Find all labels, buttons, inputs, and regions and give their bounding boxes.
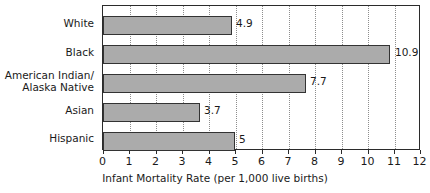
tick-mark-8 xyxy=(315,150,316,154)
bar-white xyxy=(103,16,232,35)
tick-label-5: 5 xyxy=(220,155,250,168)
tick-mark-9 xyxy=(341,150,342,154)
tick-label-3: 3 xyxy=(167,155,197,168)
tick-label-6: 6 xyxy=(247,155,277,168)
tick-mark-1 xyxy=(129,150,130,154)
category-label-american-indian-alaska-native: American Indian/ Alaska Native xyxy=(5,70,94,93)
tick-mark-7 xyxy=(288,150,289,154)
tick-label-8: 8 xyxy=(300,155,330,168)
tick-mark-10 xyxy=(368,150,369,154)
tick-label-0: 0 xyxy=(88,155,118,168)
tick-mark-12 xyxy=(420,150,421,154)
bar-black xyxy=(103,45,390,64)
tick-mark-4 xyxy=(209,150,210,154)
value-label-hispanic: 5 xyxy=(239,134,246,145)
category-label-white: White xyxy=(63,18,94,30)
tick-mark-11 xyxy=(394,150,395,154)
value-label-black: 10.9 xyxy=(395,47,418,58)
gridline-11 xyxy=(395,6,396,149)
tick-mark-6 xyxy=(262,150,263,154)
gridline-10 xyxy=(368,6,369,149)
category-label-asian: Asian xyxy=(65,105,94,117)
bar-hispanic xyxy=(103,132,235,151)
tick-mark-5 xyxy=(235,150,236,154)
tick-label-10: 10 xyxy=(353,155,383,168)
tick-label-4: 4 xyxy=(194,155,224,168)
tick-label-7: 7 xyxy=(273,155,303,168)
tick-mark-0 xyxy=(103,150,104,154)
category-label-hispanic: Hispanic xyxy=(49,133,94,145)
tick-mark-3 xyxy=(182,150,183,154)
gridline-9 xyxy=(342,6,343,149)
bar-american-indian-alaska-native xyxy=(103,74,306,93)
value-label-american-indian-alaska-native: 7.7 xyxy=(310,76,327,87)
value-label-asian: 3.7 xyxy=(204,105,221,116)
category-label-black: Black xyxy=(66,47,94,59)
tick-label-2: 2 xyxy=(141,155,171,168)
plot-area xyxy=(102,5,420,150)
infant-mortality-bar-chart: White Black American Indian/ Alaska Nati… xyxy=(0,0,430,193)
value-label-white: 4.9 xyxy=(236,18,253,29)
x-axis-title: Infant Mortality Rate (per 1,000 live bi… xyxy=(0,172,430,185)
tick-mark-2 xyxy=(156,150,157,154)
tick-label-9: 9 xyxy=(326,155,356,168)
tick-label-1: 1 xyxy=(114,155,144,168)
bar-asian xyxy=(103,103,200,122)
tick-label-12: 12 xyxy=(405,155,430,168)
category-axis-labels: White Black American Indian/ Alaska Nati… xyxy=(0,5,98,150)
